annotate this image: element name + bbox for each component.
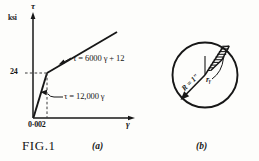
elastic-branch-equation-label: τ = 12,000 γ (64, 92, 105, 101)
x-tick-label-0-002: 0·002 (28, 121, 46, 129)
plastic-branch-equation-label: τ = 6000 γ + 12 (73, 54, 124, 63)
plastic-equation-leader (59, 58, 72, 65)
figure-page: τ ksi γ 24 0·002 τ = 6000 γ + 12 τ = 12,… (0, 0, 259, 161)
y-axis-units-ksi: ksi (8, 14, 17, 22)
panel-a-stress-strain-chart: τ ksi γ 24 0·002 τ = 6000 γ + 12 τ = 12,… (0, 0, 160, 161)
panel-a-letter: (a) (92, 142, 103, 152)
y-axis-label-tau: τ (31, 2, 35, 11)
yield-radius-label: rᵧ (206, 76, 211, 84)
y-axis-arrowhead (31, 12, 36, 19)
panel-b-shaft-cross-section: R = 1″ rᵧ (b) (160, 0, 259, 161)
elastic-branch-line (34, 73, 48, 118)
elastic-equation-leader (41, 90, 64, 97)
panel-b-letter: (b) (196, 142, 207, 152)
figure-caption: FIG.1 (22, 139, 56, 152)
y-tick-label-24: 24 (10, 68, 18, 76)
chart-plot-area (0, 0, 160, 161)
x-axis-label-gamma: γ (126, 120, 130, 129)
